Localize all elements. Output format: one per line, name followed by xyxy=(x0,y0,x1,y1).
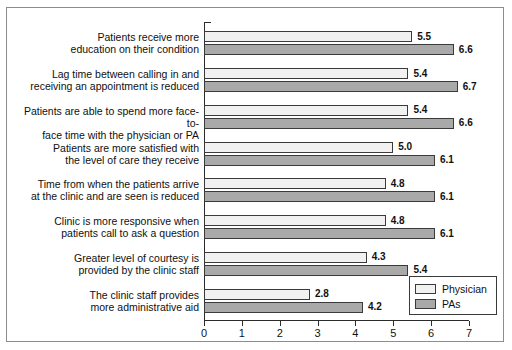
x-axis-tick-label: 1 xyxy=(239,327,245,339)
x-axis-tick-label: 5 xyxy=(390,327,396,339)
bar-physician xyxy=(204,252,367,263)
x-axis-tick-label: 7 xyxy=(466,327,472,339)
bar-value-label: 5.4 xyxy=(413,68,427,79)
bar-physician xyxy=(204,105,408,116)
bar-pas xyxy=(204,44,454,55)
bar-value-label: 6.1 xyxy=(440,154,454,165)
category-labels: Patients receive more education on their… xyxy=(17,26,199,320)
category-label: Clinic is more responsive when patients … xyxy=(54,215,199,239)
bar-physician xyxy=(204,289,310,300)
x-axis-tick xyxy=(204,321,205,326)
bar-value-label: 4.3 xyxy=(372,251,386,262)
category-label: Lag time between calling in and receivin… xyxy=(30,68,199,92)
bar-pas xyxy=(204,228,435,239)
clipped-top-text xyxy=(0,0,512,5)
chart-legend: PhysicianPAs xyxy=(409,276,497,315)
bar-value-label: 5.0 xyxy=(398,141,412,152)
category-label: Patients receive more education on their… xyxy=(71,31,199,55)
category-label: Patients are more satisfied with the lev… xyxy=(53,142,199,166)
category-label: Patients are able to spend more face-to-… xyxy=(17,105,199,141)
y-axis-top-cap xyxy=(204,22,211,23)
bar-value-label: 4.8 xyxy=(391,178,405,189)
x-axis-tick xyxy=(318,321,319,326)
category-label: Greater level of courtesy is provided by… xyxy=(74,252,199,276)
bar-value-label: 6.7 xyxy=(463,81,477,92)
bar-value-label: 5.5 xyxy=(417,31,431,42)
x-axis-line xyxy=(204,320,469,321)
bar-physician xyxy=(204,68,408,79)
x-axis-tick-label: 6 xyxy=(428,327,434,339)
legend-label: PAs xyxy=(442,298,460,310)
x-axis-tick xyxy=(280,321,281,326)
x-axis-tick xyxy=(242,321,243,326)
bar-physician xyxy=(204,178,386,189)
x-axis-tick-label: 0 xyxy=(201,327,207,339)
bar-value-label: 6.1 xyxy=(440,228,454,239)
bar-pas xyxy=(204,155,435,166)
x-axis-tick xyxy=(431,321,432,326)
bar-value-label: 6.6 xyxy=(459,117,473,128)
bar-value-label: 5.4 xyxy=(413,104,427,115)
bar-physician xyxy=(204,142,393,153)
legend-swatch xyxy=(415,284,436,294)
chart-frame: Patients receive more education on their… xyxy=(6,7,504,342)
category-label: The clinic staff provides more administr… xyxy=(89,289,199,313)
bar-value-label: 2.8 xyxy=(315,288,329,299)
bar-value-label: 6.1 xyxy=(440,191,454,202)
bar-physician xyxy=(204,215,386,226)
bar-pas xyxy=(204,118,454,129)
x-axis-tick xyxy=(355,321,356,326)
bar-pas xyxy=(204,265,408,276)
bar-value-label: 5.4 xyxy=(413,264,427,275)
bar-physician xyxy=(204,31,412,42)
category-label: Time from when the patients arrive at th… xyxy=(31,178,199,202)
bar-value-label: 6.6 xyxy=(459,44,473,55)
bar-pas xyxy=(204,191,435,202)
bar-value-label: 4.8 xyxy=(391,215,405,226)
x-axis-tick-label: 3 xyxy=(315,327,321,339)
legend-item: Physician xyxy=(415,281,491,296)
x-axis-tick-label: 4 xyxy=(352,327,358,339)
bar-pas xyxy=(204,302,363,313)
bar-value-label: 4.2 xyxy=(368,301,382,312)
legend-swatch xyxy=(415,299,436,309)
legend-label: Physician xyxy=(442,283,487,295)
x-axis-tick xyxy=(393,321,394,326)
bar-pas xyxy=(204,81,458,92)
x-axis-tick xyxy=(469,321,470,326)
legend-item: PAs xyxy=(415,296,491,311)
x-axis-tick-label: 2 xyxy=(277,327,283,339)
